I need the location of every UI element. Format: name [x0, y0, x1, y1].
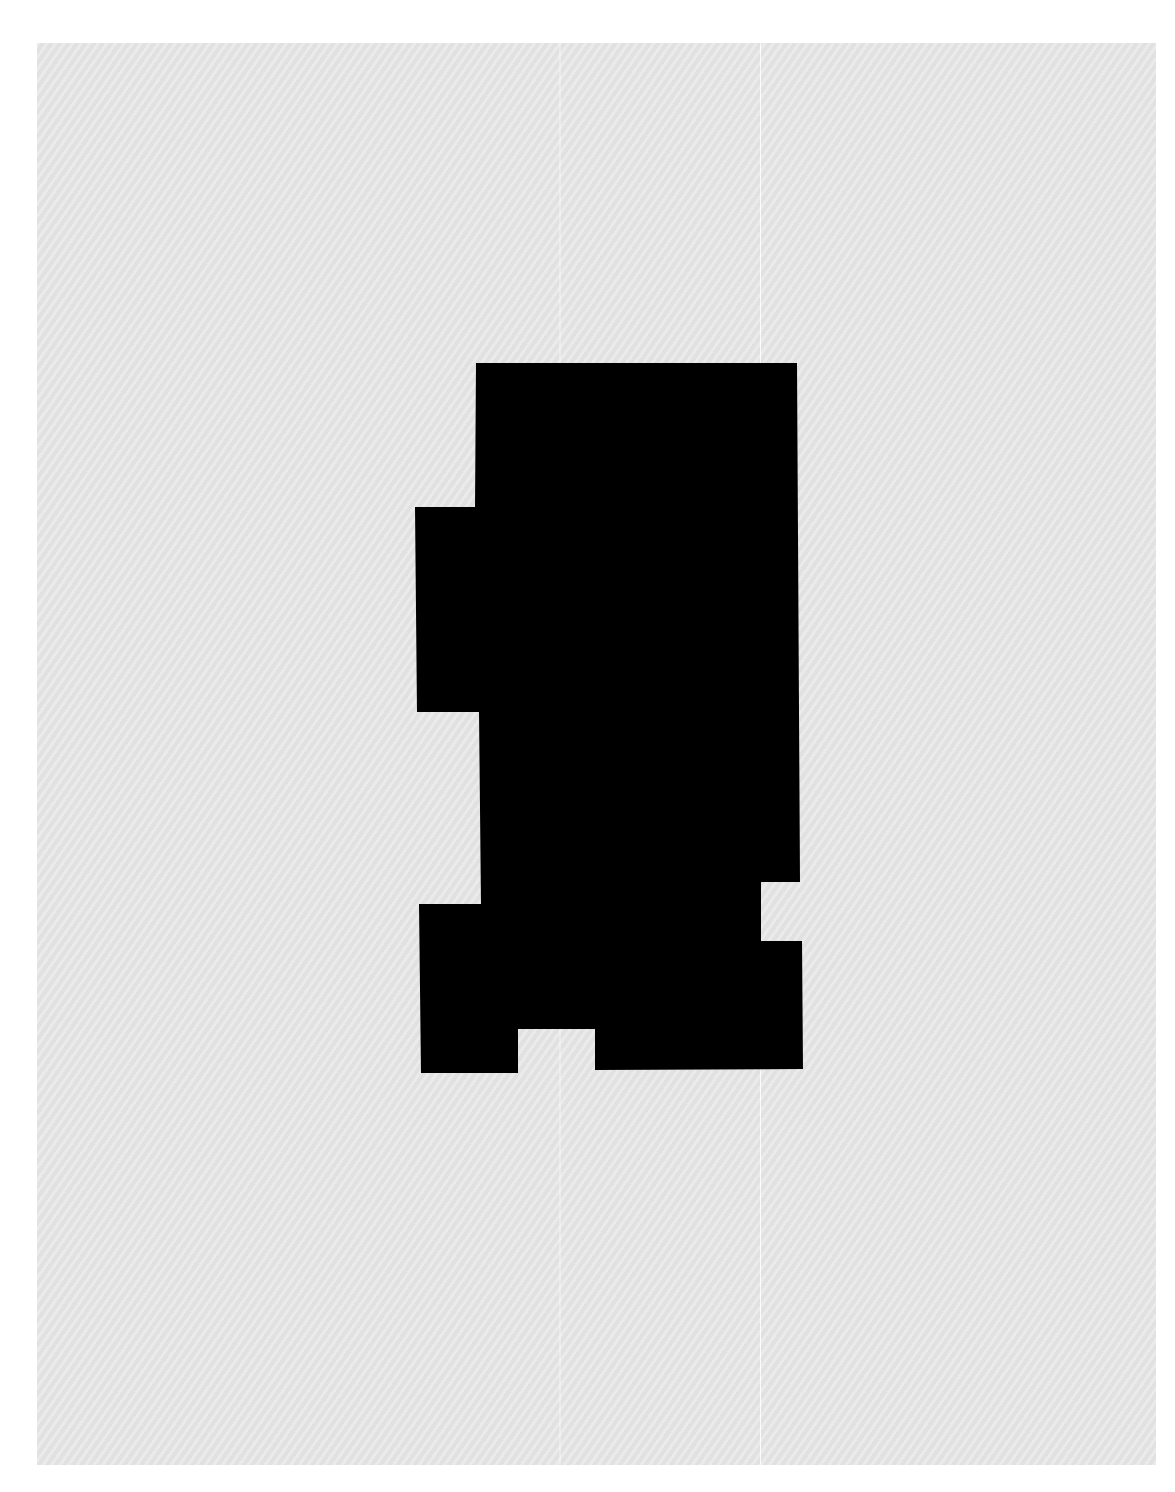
scan-artifact-fold: [559, 43, 561, 1465]
scanned-page: [37, 43, 1156, 1465]
scan-artifact-line: [760, 43, 761, 1465]
